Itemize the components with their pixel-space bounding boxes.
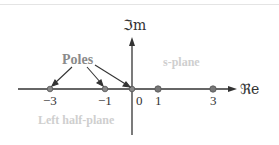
real-axis-label: ℜe (240, 82, 259, 96)
pole-marker-neg1 (102, 86, 108, 92)
imag-axis-label: ℑm (123, 18, 146, 32)
tick-label-0: 0 (136, 94, 143, 107)
marker-pos1 (155, 86, 161, 92)
poles-label: Poles (62, 53, 93, 67)
tick-label-1: 1 (155, 94, 162, 107)
s-plane-label: s-plane (163, 56, 200, 68)
real-axis-arrow-icon (228, 86, 237, 92)
tick-label-3: 3 (210, 94, 217, 107)
marker-pos3 (210, 86, 216, 92)
imag-axis-arrow-icon (129, 37, 135, 46)
poles-pointer-arrows (52, 65, 130, 87)
pole-marker-neg3 (47, 86, 53, 92)
tick-label-neg1: −1 (98, 94, 112, 107)
tick-label-neg3: −3 (43, 94, 57, 107)
left-half-plane-label: Left half-plane (38, 114, 114, 126)
